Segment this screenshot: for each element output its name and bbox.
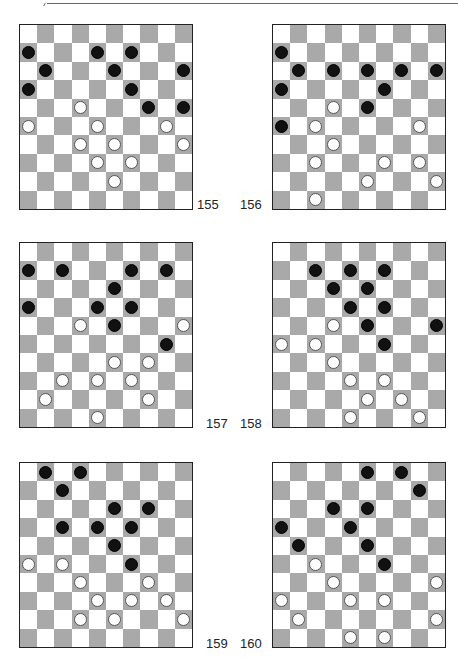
dark-square <box>307 592 324 610</box>
dark-square <box>273 481 290 499</box>
header-rule <box>47 3 458 4</box>
dark-square <box>307 409 324 427</box>
dark-square <box>123 117 140 135</box>
dark-square <box>376 298 393 316</box>
dark-square <box>37 463 54 481</box>
white-checker-piece <box>309 558 322 571</box>
light-square <box>393 43 410 61</box>
light-square <box>290 261 307 279</box>
light-square <box>37 43 54 61</box>
light-square <box>140 335 157 353</box>
dark-square <box>72 280 89 298</box>
dark-square <box>428 537 445 555</box>
white-checker-piece <box>125 594 138 607</box>
light-square <box>411 243 428 261</box>
light-square <box>140 154 157 172</box>
dark-square <box>273 518 290 536</box>
black-checker-piece <box>108 64 121 77</box>
dark-square <box>72 573 89 591</box>
light-square <box>359 298 376 316</box>
dark-square <box>20 518 37 536</box>
light-square <box>20 573 37 591</box>
light-square <box>175 629 192 647</box>
light-square <box>123 573 140 591</box>
white-checker-piece <box>309 338 322 351</box>
white-checker-piece <box>430 613 443 626</box>
dark-square <box>123 555 140 573</box>
dark-square <box>89 80 106 98</box>
light-square <box>175 518 192 536</box>
light-square <box>158 172 175 190</box>
dark-square <box>123 629 140 647</box>
light-square <box>140 298 157 316</box>
dark-square <box>123 409 140 427</box>
dark-square <box>411 518 428 536</box>
light-square <box>290 117 307 135</box>
light-square <box>175 261 192 279</box>
white-checker-piece <box>22 558 35 571</box>
dark-square <box>376 518 393 536</box>
dark-square <box>307 629 324 647</box>
light-square <box>428 481 445 499</box>
white-checker-piece <box>91 411 104 424</box>
light-square <box>376 25 393 43</box>
dark-square <box>72 99 89 117</box>
dark-square <box>37 25 54 43</box>
light-square <box>273 25 290 43</box>
light-square <box>123 62 140 80</box>
black-checker-piece <box>142 101 155 114</box>
dark-square <box>140 610 157 628</box>
light-square <box>342 537 359 555</box>
black-checker-piece <box>108 282 121 295</box>
dark-square <box>393 317 410 335</box>
light-square <box>290 629 307 647</box>
light-square <box>72 481 89 499</box>
dark-square <box>72 537 89 555</box>
light-square <box>106 518 123 536</box>
dark-square <box>140 353 157 371</box>
dark-square <box>393 172 410 190</box>
white-checker-piece <box>91 374 104 387</box>
dark-square <box>140 280 157 298</box>
light-square <box>307 390 324 408</box>
dark-square <box>393 500 410 518</box>
light-square <box>54 99 71 117</box>
light-square <box>290 298 307 316</box>
black-checker-piece <box>378 338 391 351</box>
black-checker-piece <box>395 64 408 77</box>
light-square <box>158 610 175 628</box>
dark-square <box>428 463 445 481</box>
dark-square <box>376 80 393 98</box>
dark-square <box>359 463 376 481</box>
white-checker-piece <box>378 631 391 644</box>
dark-square <box>376 335 393 353</box>
dark-square <box>428 573 445 591</box>
dark-square <box>411 43 428 61</box>
white-checker-piece <box>309 156 322 169</box>
black-checker-piece <box>74 466 87 479</box>
light-square <box>123 390 140 408</box>
dark-square <box>54 298 71 316</box>
light-square <box>359 335 376 353</box>
dark-square <box>290 463 307 481</box>
light-square <box>123 353 140 371</box>
dark-square <box>359 573 376 591</box>
white-checker-piece <box>344 594 357 607</box>
dark-square <box>106 172 123 190</box>
light-square <box>428 261 445 279</box>
light-square <box>37 298 54 316</box>
black-checker-piece <box>361 466 374 479</box>
dark-square <box>54 592 71 610</box>
dark-square <box>106 135 123 153</box>
light-square <box>89 573 106 591</box>
light-square <box>411 99 428 117</box>
dark-square <box>428 390 445 408</box>
black-checker-piece <box>378 83 391 96</box>
dark-square <box>342 629 359 647</box>
dark-square <box>20 80 37 98</box>
dark-square <box>428 62 445 80</box>
checkers-diagram-157 <box>19 242 193 428</box>
dark-square <box>376 154 393 172</box>
white-checker-piece <box>309 120 322 133</box>
light-square <box>307 280 324 298</box>
